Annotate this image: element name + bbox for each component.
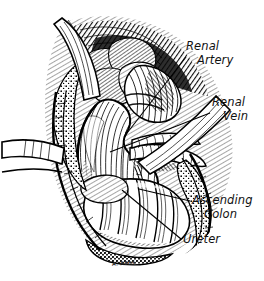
label-renal-vein-line1: Renal [212, 95, 245, 109]
label-ascending-colon-line2: Colon [204, 208, 253, 222]
colon-upper-loop [81, 175, 128, 203]
label-renal-vein-line2: Vein [223, 110, 248, 124]
label-renal-vein: Renal Vein [212, 96, 248, 123]
label-renal-artery-line2: Artery [197, 54, 233, 68]
label-ureter-line1: Ureter [183, 232, 220, 246]
label-renal-artery: Renal Artery [186, 40, 233, 67]
anatomical-illustration-figure: Renal Artery Renal Vein Ascending Colon … [0, 0, 264, 281]
label-ascending-colon-line1: Ascending [192, 193, 253, 207]
label-ureter: Ureter [183, 233, 220, 247]
label-ascending-colon: Ascending Colon [192, 194, 253, 221]
label-renal-artery-line1: Renal [186, 39, 219, 53]
